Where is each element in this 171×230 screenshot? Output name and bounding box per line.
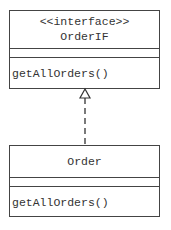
class-name-section: Order xyxy=(10,146,159,178)
class-attributes-section xyxy=(10,178,159,187)
class-name: Order xyxy=(10,154,159,169)
hollow-triangle-icon xyxy=(80,89,90,98)
class-methods-section: getAllOrders() xyxy=(10,187,159,217)
class-order-box: Order getAllOrders() xyxy=(9,145,160,217)
class-method: getAllOrders() xyxy=(12,196,109,209)
